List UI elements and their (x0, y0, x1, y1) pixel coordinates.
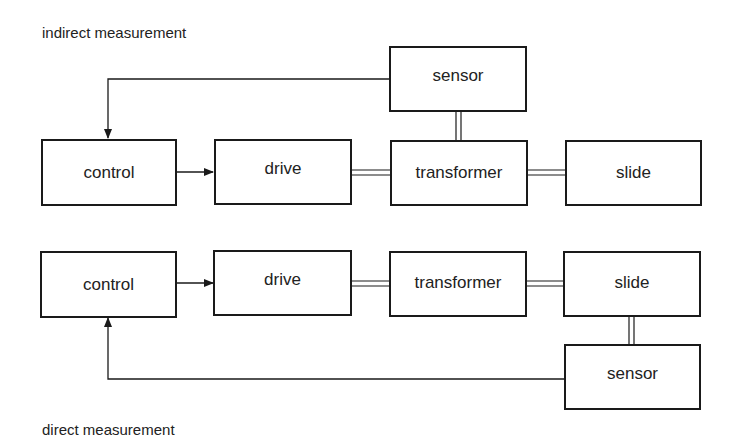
indirect-feedback-line (108, 79, 390, 138)
direct-drive-label: drive (264, 270, 301, 290)
direct-transformer-label: transformer (415, 273, 502, 293)
indirect-control-label: control (83, 163, 134, 183)
direct-measurement-caption: direct measurement (42, 421, 175, 437)
direct-transformer-box: transformer (389, 251, 527, 317)
indirect-sensor-label: sensor (432, 66, 483, 86)
indirect-transformer-label: transformer (416, 163, 503, 183)
direct-control-box: control (40, 251, 177, 318)
indirect-measurement-caption: indirect measurement (42, 24, 186, 41)
indirect-transformer-box: transformer (390, 140, 528, 206)
indirect-sensor-box: sensor (389, 46, 527, 112)
indirect-control-box: control (41, 139, 177, 206)
direct-slide-box: slide (563, 251, 701, 317)
direct-feedback-line (108, 318, 564, 379)
direct-sensor-label: sensor (607, 364, 658, 384)
indirect-slide-label: slide (616, 163, 651, 183)
direct-slide-label: slide (615, 273, 650, 293)
indirect-drive-box: drive (214, 139, 352, 205)
direct-drive-box: drive (213, 250, 352, 316)
indirect-drive-label: drive (265, 159, 302, 179)
direct-sensor-box: sensor (564, 344, 701, 410)
indirect-slide-box: slide (565, 140, 702, 206)
direct-control-label: control (83, 275, 134, 295)
